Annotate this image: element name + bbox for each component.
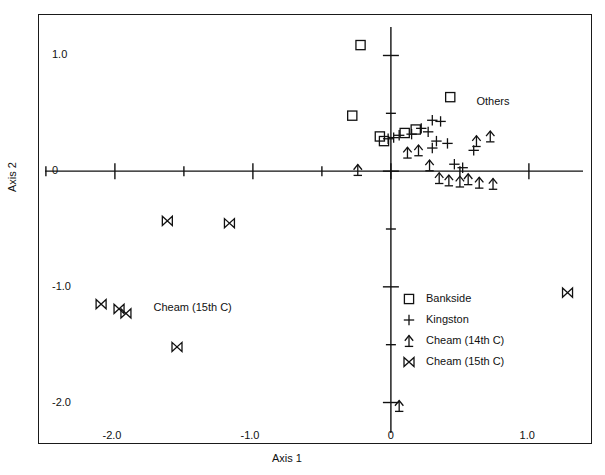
data-point-arrow-up — [435, 173, 443, 184]
legend-marker-arrow-up-icon — [398, 332, 420, 350]
data-point-arrow-up — [425, 160, 433, 171]
legend-marker-plus-icon — [398, 311, 420, 329]
scatter-plot — [39, 15, 591, 443]
legend: BanksideKingstonCheam (14th C)Cheam (15t… — [398, 290, 548, 374]
data-point-arrow-up — [456, 176, 464, 187]
y-tick-label: 0 — [52, 164, 58, 176]
data-point-bowtie — [172, 342, 182, 351]
data-point-plus — [427, 115, 437, 125]
legend-marker-bowtie-icon — [398, 353, 420, 371]
y-tick-label: 1.0 — [52, 48, 67, 60]
chart-annotation: Others — [476, 95, 509, 107]
data-point-plus — [394, 130, 404, 140]
x-axis-title: Axis 1 — [272, 452, 302, 464]
data-point-bowtie — [114, 304, 124, 313]
x-tick-label: 0 — [388, 429, 394, 441]
legend-marker-square-icon — [398, 290, 420, 308]
data-point-bowtie — [224, 219, 234, 228]
data-point-plus — [442, 138, 452, 148]
data-point-bowtie — [404, 357, 414, 366]
data-point-arrow-up — [464, 174, 472, 185]
legend-item: Cheam (15th C) — [398, 353, 548, 374]
legend-label: Bankside — [426, 292, 471, 304]
plot-canvas — [39, 15, 591, 443]
data-point-square — [348, 111, 357, 120]
data-point-arrow-up — [405, 336, 413, 347]
y-tick-label: -2.0 — [52, 396, 71, 408]
data-point-square — [400, 128, 409, 137]
data-point-arrow-up — [472, 136, 480, 147]
data-point-arrow-up — [489, 178, 497, 189]
y-tick-label: -1.0 — [52, 280, 71, 292]
data-point-arrow-up — [486, 131, 494, 142]
chart-annotation: Cheam (15th C) — [154, 301, 232, 313]
data-point-square — [356, 40, 365, 49]
data-point-bowtie — [563, 288, 573, 297]
x-tick-label: -1.0 — [241, 429, 260, 441]
legend-item: Cheam (14th C) — [398, 332, 548, 353]
legend-label: Cheam (15th C) — [426, 355, 504, 367]
data-point-bowtie — [96, 300, 106, 309]
data-point-plus — [404, 315, 414, 325]
x-tick-label: -2.0 — [103, 429, 122, 441]
plot-frame — [38, 14, 592, 444]
legend-label: Cheam (14th C) — [426, 334, 504, 346]
data-point-arrow-up — [445, 175, 453, 186]
x-tick-label: 1.0 — [520, 429, 535, 441]
legend-item: Kingston — [398, 311, 548, 332]
data-point-plus — [388, 132, 398, 142]
data-point-bowtie — [162, 216, 172, 225]
data-point-arrow-up — [354, 165, 362, 176]
data-point-arrow-up — [414, 145, 422, 156]
data-point-arrow-up — [403, 147, 411, 158]
y-axis-title: Axis 2 — [6, 162, 18, 192]
data-point-plus — [435, 116, 445, 126]
data-point-bowtie — [121, 309, 131, 318]
data-point-arrow-up — [475, 177, 483, 188]
legend-label: Kingston — [426, 313, 469, 325]
data-point-square — [404, 294, 413, 303]
data-point-square — [446, 93, 455, 102]
legend-item: Bankside — [398, 290, 548, 311]
figure: Axis 2 Axis 1 -2.0-1.001.0-2.0-1.001.0 O… — [0, 0, 605, 475]
data-point-square — [411, 125, 420, 134]
